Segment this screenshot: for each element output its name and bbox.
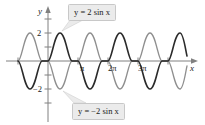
trig-graph-figure: x y π 2π 3π 2 −2 y = 2 sin x y = −2 sin … <box>0 0 205 125</box>
y-tick-label-neg2: −2 <box>33 84 42 94</box>
callout-top-tail <box>62 20 83 31</box>
callout-top-text: y = 2 sin x <box>74 7 110 17</box>
curve-positive-2-sin-x <box>18 33 187 89</box>
callout-label-positive: y = 2 sin x <box>68 4 116 21</box>
callout-bottom-tail <box>63 91 86 103</box>
callout-bottom-text: y = −2 sin x <box>78 106 119 116</box>
callout-label-negative: y = −2 sin x <box>72 103 125 120</box>
x-tick-label-2pi: 2π <box>108 63 117 73</box>
x-tick-label-3pi: 3π <box>138 63 147 73</box>
y-axis-label: y <box>37 6 42 16</box>
x-tick-label-pi: π <box>80 63 85 73</box>
x-axis-label: x <box>189 63 194 73</box>
y-tick-label-2: 2 <box>37 28 41 38</box>
